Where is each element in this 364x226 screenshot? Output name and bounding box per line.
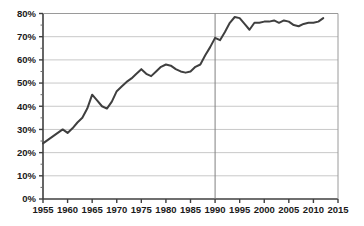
y-tick-label-50: 50% xyxy=(17,77,37,88)
y-tick-label-80: 80% xyxy=(17,8,37,19)
x-tick-label-1955: 1955 xyxy=(32,204,54,215)
y-tick-label-60: 60% xyxy=(17,54,37,65)
x-tick-label-1990: 1990 xyxy=(205,204,226,215)
x-tick-label-2005: 2005 xyxy=(278,204,300,215)
x-tick-label-1960: 1960 xyxy=(57,204,78,215)
y-tick-label-0: 0% xyxy=(22,193,36,204)
y-tick-label-70: 70% xyxy=(17,31,37,42)
chart-page: 0%10%20%30%40%50%60%70%80% 1955196019651… xyxy=(0,0,364,226)
x-tick-label-1980: 1980 xyxy=(155,204,176,215)
x-tick-label-2015: 2015 xyxy=(327,204,349,215)
y-tick-label-20: 20% xyxy=(17,147,37,158)
x-tick-label-1965: 1965 xyxy=(82,204,104,215)
y-tick-label-10: 10% xyxy=(17,170,37,181)
y-axis-tick-labels: 0%10%20%30%40%50%60%70%80% xyxy=(17,8,37,205)
x-tick-label-1995: 1995 xyxy=(229,204,251,215)
x-tick-label-2010: 2010 xyxy=(303,204,324,215)
x-tick-label-1985: 1985 xyxy=(180,204,202,215)
y-tick-label-40: 40% xyxy=(17,101,37,112)
x-tick-label-1970: 1970 xyxy=(106,204,127,215)
chart-background xyxy=(0,0,364,226)
x-tick-label-1975: 1975 xyxy=(131,204,153,215)
line-chart: 0%10%20%30%40%50%60%70%80% 1955196019651… xyxy=(0,0,364,226)
x-tick-label-2000: 2000 xyxy=(254,204,275,215)
y-tick-label-30: 30% xyxy=(17,124,37,135)
